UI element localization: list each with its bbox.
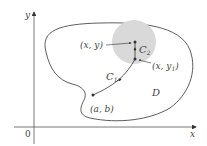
line-integral-diagram: y x 0 (x, y) (x, y1) (a, b) C1 C2 D (0, 0, 207, 146)
point-ab-label: (a, b) (90, 104, 114, 114)
point-ab (92, 94, 95, 97)
region-d-label: D (151, 87, 160, 98)
x-axis-label: x (190, 129, 195, 139)
origin-label: 0 (25, 129, 31, 139)
point-xy-label: (x, y) (80, 40, 103, 50)
point-xy1 (134, 58, 137, 61)
y-axis-label: y (24, 10, 31, 20)
point-xy (134, 41, 137, 44)
point-xy1-label: (x, y1) (152, 61, 179, 72)
